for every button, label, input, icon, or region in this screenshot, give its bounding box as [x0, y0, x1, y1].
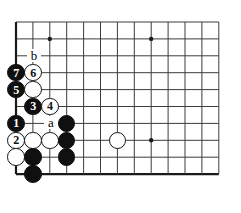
stone-move-number: 2: [13, 134, 19, 146]
stone-white-move-2: 2: [7, 132, 25, 150]
stone-move-number: 1: [13, 117, 19, 129]
stone-move-number: 7: [13, 66, 19, 78]
stone-black: [24, 148, 42, 166]
stone-white: [24, 81, 42, 99]
stone-move-number: 4: [47, 100, 53, 112]
stone-move-number: 5: [13, 83, 19, 95]
stone-white: [7, 148, 25, 166]
stone-black-move-3: 3: [24, 98, 42, 116]
go-board-diagram: 6753412 ba: [0, 0, 241, 213]
stone-move-number: 3: [30, 100, 36, 112]
point-label-a: a: [44, 116, 58, 129]
stone-white: [109, 132, 127, 150]
stone-black-move-1: 1: [7, 115, 25, 133]
stone-white: [41, 132, 59, 150]
star-point: [149, 138, 153, 142]
stone-white: [24, 132, 42, 150]
stone-black-move-7: 7: [7, 64, 25, 82]
star-point: [48, 37, 52, 41]
stone-black: [24, 165, 42, 183]
star-point: [149, 37, 153, 41]
point-label-b: b: [27, 49, 41, 62]
stone-move-number: 6: [30, 66, 36, 78]
stone-black-move-5: 5: [7, 81, 25, 99]
stone-white-move-6: 6: [24, 64, 42, 82]
stone-white-move-4: 4: [41, 98, 59, 116]
